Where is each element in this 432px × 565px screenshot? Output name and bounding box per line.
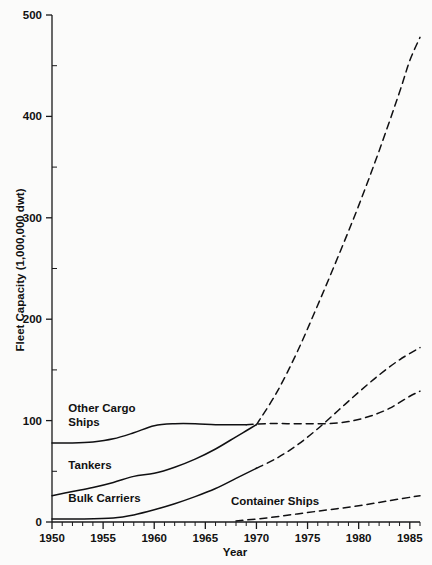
x-axis-tick-label: 1965 xyxy=(193,532,219,544)
x-axis-tick-label: 1980 xyxy=(346,532,372,544)
x-axis-title: Year xyxy=(223,546,248,558)
series-label-container-ships: Container Ships xyxy=(231,495,319,507)
y-axis-tick-label: 0 xyxy=(36,516,42,528)
x-axis-tick-label: 1985 xyxy=(397,532,423,544)
y-axis-title: Fleet Capacity (1,000,000 dwt) xyxy=(14,188,26,351)
y-axis-tick-label: 500 xyxy=(23,9,42,21)
chart-container: 0100200300400500 19501955196019651970197… xyxy=(0,0,432,565)
y-axis-tick-label: 400 xyxy=(23,110,42,122)
x-axis-tick-label: 1970 xyxy=(244,532,270,544)
x-axis-tick-label: 1960 xyxy=(141,532,167,544)
x-axis-tick-label: 1955 xyxy=(90,532,116,544)
x-axis-tick-label: 1975 xyxy=(295,532,321,544)
chart-background xyxy=(0,0,432,565)
y-axis-tick-label: 100 xyxy=(23,415,42,427)
x-axis-tick-label: 1950 xyxy=(39,532,65,544)
series-label-bulk-carriers: Bulk Carriers xyxy=(68,492,140,504)
fleet-capacity-line-chart: 0100200300400500 19501955196019651970197… xyxy=(0,0,432,565)
series-label-tankers: Tankers xyxy=(68,459,111,471)
